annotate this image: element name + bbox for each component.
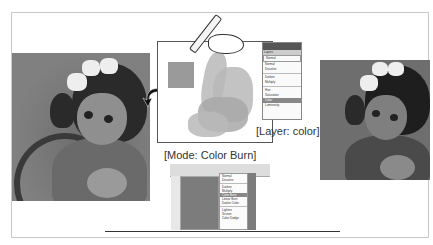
blend-mode-menu: Normal Dissolve Darken Multiply Color Bu…	[219, 173, 248, 230]
photoshop-toolbar	[171, 176, 181, 230]
portrait-before-image	[12, 53, 150, 201]
portrait-after-image	[320, 60, 430, 180]
layer-caption: [Layer: color]	[256, 125, 320, 137]
mode-caption: [Mode: Color Burn]	[164, 149, 256, 161]
photoshop-panel-strip	[248, 173, 256, 230]
layers-panel: Layers Normal Normal Dissolve Darken Mul…	[262, 42, 302, 120]
blend-option[interactable]: Luminosity	[263, 103, 301, 108]
menu-item[interactable]: Dissolve	[220, 178, 247, 182]
menu-item[interactable]: Darker Color	[220, 201, 247, 205]
blend-option[interactable]: Dissolve	[263, 67, 301, 72]
color-swatch	[168, 62, 194, 88]
blend-option[interactable]: Multiply	[263, 80, 301, 85]
menu-item[interactable]: Color Dodge	[220, 216, 247, 220]
hand-icon	[208, 34, 244, 54]
divider-line	[105, 231, 340, 232]
blend-mode-select[interactable]: Normal	[263, 55, 301, 62]
